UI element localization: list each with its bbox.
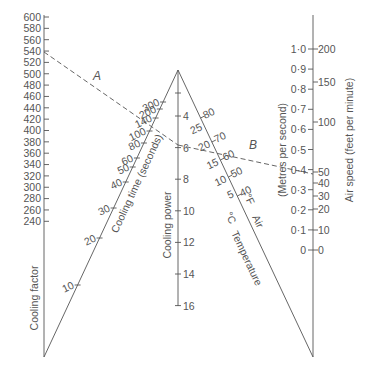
tick-label: 16 (183, 300, 195, 312)
tick-label: 500 (23, 68, 41, 80)
tick-label: 50 (229, 164, 245, 180)
tick-label: 600 (23, 11, 41, 23)
tick-label: 480 (23, 79, 41, 91)
tick-label: 4 (183, 110, 189, 122)
tick-label: 340 (23, 158, 41, 170)
line-a (44, 52, 178, 145)
tick-label: 0·9 (291, 63, 306, 75)
tick-label: 360 (23, 147, 41, 159)
line-a-label: A (92, 69, 101, 83)
tick-label: 380 (23, 136, 41, 148)
tick-label: 150 (318, 76, 336, 88)
cooling-factor-label: Cooling factor (28, 265, 40, 330)
tick-label: 25 (188, 120, 204, 136)
tick-label: 0·1 (291, 224, 306, 236)
tick-label: 70 (212, 129, 228, 145)
tick-label: 300 (23, 181, 41, 193)
nomogram: 6005805605405205004804604404204003803603… (0, 0, 370, 370)
tick-label: 100 (318, 116, 336, 128)
tick-label: 400 (23, 124, 41, 136)
air-speed-axis: 1·00·90·80·70·60·50·40·30·20·10200150100… (276, 15, 355, 357)
tick-label: 460 (23, 90, 41, 102)
tick-label: 540 (23, 45, 41, 57)
tick-label: 0·7 (291, 103, 306, 115)
tick-label: 8 (183, 173, 189, 185)
tick-label: 320 (23, 170, 41, 182)
tick-label: 0·2 (291, 204, 306, 216)
temperature-label: Temperature (229, 229, 265, 288)
tick-label: 280 (23, 192, 41, 204)
tick-label: 20 (318, 203, 330, 215)
tick-label: 1·0 (291, 43, 306, 55)
cooling-factor-axis: 6005805605405205004804604404204003803603… (23, 11, 49, 357)
tick-label: 20 (82, 232, 98, 248)
tick-label: 520 (23, 56, 41, 68)
air-speed-metric-label: (Metres per second) (276, 103, 288, 197)
tick-label: 420 (23, 113, 41, 125)
cooling-time-axis: 30020014010080605040302010 Cooling time … (44, 70, 178, 357)
tick-label: 440 (23, 102, 41, 114)
tick-label: 10 (318, 224, 330, 236)
tick-label: 30 (96, 202, 112, 218)
cooling-power-axis: 46810121416 Cooling power (161, 70, 195, 312)
tick-label: 15 (205, 155, 221, 171)
tick-label: 0·5 (291, 144, 306, 156)
air-label: Air (250, 213, 267, 230)
tick-label: 580 (23, 22, 41, 34)
cooling-power-label: Cooling power (161, 191, 173, 259)
tick-label: 40 (318, 177, 330, 189)
tick-label: 0·3 (291, 184, 306, 196)
tick-label: 0·8 (291, 83, 306, 95)
line-b-label: B (249, 138, 257, 152)
tick-label: 40 (108, 176, 124, 192)
tick-label: 30 (318, 190, 330, 202)
tick-label: 60 (221, 147, 237, 163)
tick-label: 80 (201, 105, 217, 121)
air-speed-imperial-label: Air speed (feet per minute) (343, 78, 355, 202)
tick-label: 14 (183, 268, 195, 280)
tick-label: 0·6 (291, 123, 306, 135)
tick-label: 10 (60, 279, 76, 295)
tick-label: 240 (23, 215, 41, 227)
tick-label: 560 (23, 34, 41, 46)
tick-label: 260 (23, 204, 41, 216)
tick-label: 0 (300, 244, 306, 256)
tick-label: 0 (318, 244, 324, 256)
celsius-label: °C (223, 210, 239, 226)
tick-label: 12 (183, 236, 195, 248)
tick-label: 10 (213, 172, 229, 188)
tick-label: 0·4 (291, 164, 306, 176)
tick-label: 10 (183, 205, 195, 217)
tick-label: 200 (318, 43, 336, 55)
